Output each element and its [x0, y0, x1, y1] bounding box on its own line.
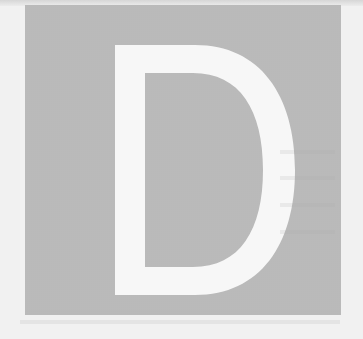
bleed-through-line [280, 150, 335, 154]
drop-cap-box: D [25, 5, 341, 315]
letter-d-glyph [115, 45, 295, 295]
drop-cap-letter: D [115, 45, 295, 295]
bleed-through-line [20, 320, 340, 324]
bleed-through-line [280, 176, 335, 180]
bleed-through-line [280, 203, 335, 207]
bleed-through-line [280, 230, 335, 234]
drop-cap-text: D [115, 295, 116, 296]
